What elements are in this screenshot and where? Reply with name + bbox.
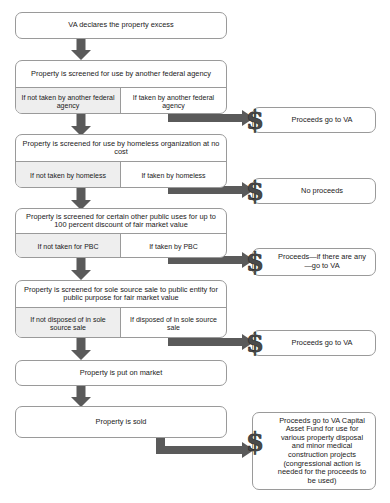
outcome-federal-proceeds[interactable]: $ Proceeds go to VA [252,107,376,133]
outcome-sole-source-proceeds-label: Proceeds go to VA [291,339,352,348]
branch-sole-source-not-disposed[interactable]: If not disposed of in sole source sale [16,308,121,338]
node-sole-source-screening[interactable]: Property is screened for sole source sal… [15,280,227,338]
flowchart-canvas: VA declares the property excess Property… [0,0,390,503]
node-property-sold-label: Property is sold [16,407,226,437]
arrow-solesource-to-market [70,338,92,360]
node-federal-branches: If not taken by another federal agency I… [16,87,226,114]
node-pbc-header: Property is screened for certain other p… [16,209,226,233]
outcome-capital-asset-fund-label: Proceeds go to VA Capital Asset Fund for… [275,417,369,486]
node-sole-source-header: Property is screened for sole source sal… [16,281,226,307]
outcome-capital-asset-fund[interactable]: $ Proceeds go to VA Capital Asset Fund f… [252,412,376,490]
arrow-start-to-federal [70,38,92,60]
outcome-federal-proceeds-label: Proceeds go to VA [291,116,352,125]
arrow-federal-to-homeless [70,114,92,136]
branch-homeless-taken[interactable]: If taken by homeless [121,162,226,188]
node-federal-header: Property is screened for use by another … [16,61,226,87]
branch-federal-taken[interactable]: If taken by another federal agency [121,88,226,114]
outcome-homeless-no-proceeds[interactable]: $ No proceeds [252,178,376,204]
node-start-label: VA declares the property excess [16,13,226,38]
outcome-pbc-proceeds-label: Proceeds—if there are any—go to VA [275,253,369,270]
arrow-homeless-to-pbc [70,188,92,210]
node-start[interactable]: VA declares the property excess [15,12,227,39]
branch-pbc-not-taken[interactable]: If not taken for PBC [16,234,121,258]
node-put-on-market[interactable]: Property is put on market [15,360,227,386]
node-sole-source-branches: If not disposed of in sole source sale I… [16,307,226,338]
node-homeless-screening[interactable]: Property is screened for use by homeless… [15,134,227,188]
branch-homeless-not-taken[interactable]: If not taken by homeless [16,162,121,188]
node-federal-screening[interactable]: Property is screened for use by another … [15,60,227,114]
outcome-sole-source-proceeds[interactable]: $ Proceeds go to VA [252,330,376,356]
node-homeless-branches: If not taken by homeless If taken by hom… [16,161,226,188]
node-pbc-branches: If not taken for PBC If taken by PBC [16,233,226,258]
node-homeless-header: Property is screened for use by homeless… [16,135,226,161]
branch-sole-source-disposed[interactable]: If disposed of in sole source sale [121,308,226,338]
node-property-sold[interactable]: Property is sold [15,406,227,438]
outcome-homeless-no-proceeds-label: No proceeds [301,187,343,196]
node-put-on-market-label: Property is put on market [16,361,226,385]
branch-federal-not-taken[interactable]: If not taken by another federal agency [16,88,121,114]
arrow-market-to-sold [70,385,92,407]
node-pbc-screening[interactable]: Property is screened for certain other p… [15,208,227,258]
branch-pbc-taken[interactable]: If taken by PBC [121,234,226,258]
arrow-pbc-to-solesource [70,258,92,280]
outcome-pbc-proceeds[interactable]: $ Proceeds—if there are any—go to VA [252,248,376,276]
